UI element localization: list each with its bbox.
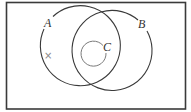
label-c: C [103, 40, 112, 54]
label-b: B [138, 17, 146, 31]
venn-diagram: A B C × [0, 0, 191, 112]
universal-set-frame [7, 3, 186, 110]
label-a: A [43, 16, 52, 30]
cross-mark-icon: × [44, 50, 52, 61]
